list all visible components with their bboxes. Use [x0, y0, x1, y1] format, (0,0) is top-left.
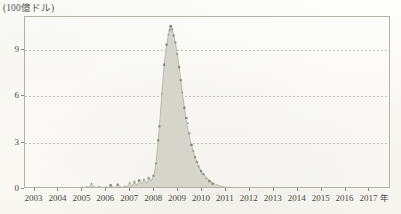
y-tick-label-6: 6 — [1, 91, 19, 100]
plot-frame — [24, 16, 390, 188]
x-tick-label-2008: 2008 — [144, 193, 162, 203]
x-tick-mark-2015 — [321, 188, 322, 191]
plot-area — [25, 17, 389, 187]
x-tick-label-2013: 2013 — [264, 193, 282, 203]
x-tick-label-2012: 2012 — [240, 193, 258, 203]
y-tick-label-0: 0 — [1, 184, 19, 193]
x-tick-label-2005: 2005 — [72, 193, 90, 203]
series-area-fill — [27, 25, 387, 187]
x-tick-mark-2009 — [177, 188, 178, 191]
x-tick-label-2011: 2011 — [216, 193, 234, 203]
x-tick-label-2006: 2006 — [96, 193, 114, 203]
x-tick-mark-2004 — [57, 188, 58, 191]
x-tick-label-2007: 2007 — [120, 193, 138, 203]
y-tick-mark-6 — [21, 95, 24, 96]
series-outline — [27, 25, 387, 187]
y-tick-label-9: 9 — [1, 44, 19, 53]
y-axis: 0369 — [0, 16, 24, 188]
x-tick-label-2017: 2017 — [359, 193, 377, 203]
x-tick-mark-2012 — [249, 188, 250, 191]
chart-screenshot: (100億ドル) 0369 20032004200520062007200820… — [0, 0, 401, 214]
x-tick-mark-2014 — [297, 188, 298, 191]
x-axis-year-suffix: 年 — [380, 193, 389, 203]
x-tick-mark-2003 — [34, 188, 35, 191]
x-tick-label-2015: 2015 — [312, 193, 330, 203]
x-tick-mark-2017 — [368, 188, 369, 191]
x-tick-mark-2007 — [129, 188, 130, 191]
series-area-chart — [25, 17, 389, 187]
x-tick-label-2016: 2016 — [336, 193, 354, 203]
y-tick-label-3: 3 — [1, 137, 19, 146]
x-axis: 2003200420052006200720082009201020112012… — [24, 188, 390, 214]
x-tick-mark-2016 — [345, 188, 346, 191]
x-tick-label-2014: 2014 — [288, 193, 306, 203]
y-axis-unit-label: (100億ドル) — [3, 2, 54, 14]
x-tick-label-2010: 2010 — [192, 193, 210, 203]
x-tick-label-2004: 2004 — [48, 193, 66, 203]
x-tick-label-2009: 2009 — [168, 193, 186, 203]
x-tick-label-2003: 2003 — [25, 193, 43, 203]
y-tick-mark-9 — [21, 49, 24, 50]
x-tick-mark-2005 — [81, 188, 82, 191]
x-tick-mark-2013 — [273, 188, 274, 191]
x-tick-mark-2006 — [105, 188, 106, 191]
x-tick-mark-2011 — [225, 188, 226, 191]
x-tick-mark-2010 — [201, 188, 202, 191]
x-tick-mark-2008 — [153, 188, 154, 191]
y-tick-mark-3 — [21, 142, 24, 143]
